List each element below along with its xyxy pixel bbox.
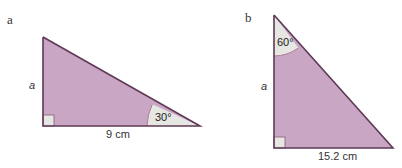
- side-label-a: a: [29, 79, 35, 91]
- base-length-label-b: 15.2 cm: [318, 150, 357, 162]
- triangle-b: [274, 15, 393, 148]
- triangles-svg: [0, 0, 402, 168]
- right-angle-marker-a: [43, 115, 54, 126]
- side-label-b: a: [261, 80, 267, 92]
- angle-label-30: 30°: [155, 111, 172, 123]
- right-angle-marker-b: [274, 137, 285, 148]
- angle-label-60: 60°: [277, 36, 294, 48]
- diagram-canvas: a a 9 cm 30° b a 15.2 cm 60°: [0, 0, 402, 168]
- base-length-label-a: 9 cm: [106, 128, 130, 140]
- part-label-a: a: [7, 12, 13, 28]
- triangle-a: [43, 37, 200, 126]
- part-label-b: b: [245, 10, 252, 26]
